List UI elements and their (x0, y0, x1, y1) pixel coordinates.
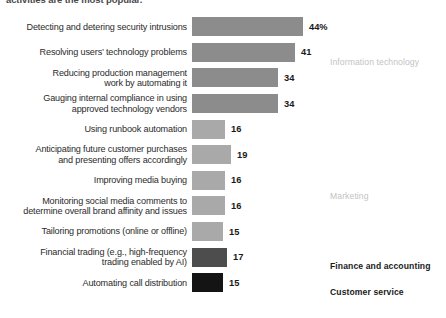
bar-row: Detecting and detering security intrusio… (0, 14, 446, 40)
bar-row-label-line2: approved technology vendors (0, 104, 187, 114)
bar-zone: 34 (192, 91, 446, 117)
bar (192, 94, 278, 113)
bar-row-label-line1: Monitoring social media comments to (42, 196, 187, 206)
bar-row-label: Improving media buying (0, 175, 192, 185)
bar-value-label: 34 (284, 99, 294, 109)
bar-zone: 16 (192, 116, 446, 142)
bar-value-label: 16 (231, 124, 241, 134)
bar-zone: 15 (192, 270, 446, 296)
bar (192, 145, 231, 164)
bar-row: Anticipating future customer purchasesan… (0, 142, 446, 168)
bar-row: Using runbook automation16 (0, 116, 446, 142)
bar-row-label: Monitoring social media comments todeter… (0, 196, 192, 217)
bar-row-label: Using runbook automation (0, 124, 192, 134)
bar-row-label-line2: determine overall brand affinity and iss… (0, 206, 187, 216)
bar-row-label: Automating call distribution (0, 278, 192, 288)
bar-row-label-line2: work by automating it (0, 78, 187, 88)
bar-value-label: 44% (309, 22, 328, 32)
bar-value-label: 16 (231, 201, 241, 211)
bar-row-label-line1: Reducing production management (52, 68, 187, 78)
bar-row-label-line1: Using runbook automation (84, 124, 187, 134)
bar-row-label-line1: Anticipating future customer purchases (35, 144, 187, 154)
bar-chart: activities are the most popular. Detecti… (0, 0, 446, 318)
bar-row-label: Financial trading (e.g., high-frequencyt… (0, 247, 192, 268)
bar-row-label-line1: Automating call distribution (83, 278, 187, 288)
group-label-marketing: Marketing (330, 191, 369, 201)
bar-value-label: 16 (231, 175, 241, 185)
bar-value-label: 15 (229, 227, 239, 237)
bar-row: Reducing production managementwork by au… (0, 65, 446, 91)
bar-value-label: 34 (284, 73, 294, 83)
group-label-customer-service: Customer service (330, 287, 404, 297)
bar-row-label-line1: Tailoring promotions (online or offline) (42, 226, 187, 236)
bar-zone: 16 (192, 193, 446, 219)
bar-row-label-line1: Gauging internal compliance in using (43, 93, 187, 103)
chart-title: activities are the most popular. (6, 0, 306, 6)
bar-row: Gauging internal compliance in usingappr… (0, 91, 446, 117)
bar-row-label-line1: Resolving users’ technology problems (40, 47, 187, 57)
bar-row-label-line2: and presenting offers accordingly (0, 155, 187, 165)
bar (192, 120, 225, 139)
bar-value-label: 15 (229, 278, 239, 288)
bar-row-label: Gauging internal compliance in usingappr… (0, 93, 192, 114)
bar-zone: 44% (192, 14, 446, 40)
bar-zone: 19 (192, 142, 446, 168)
bar (192, 68, 278, 87)
bar-row: Tailoring promotions (online or offline)… (0, 219, 446, 245)
bar-row-label: Tailoring promotions (online or offline) (0, 226, 192, 236)
bar (192, 222, 223, 241)
bar (192, 43, 295, 62)
bar-row-label-line1: Financial trading (e.g., high-frequency (40, 247, 187, 257)
bar (192, 17, 303, 36)
bar-row-label: Resolving users’ technology problems (0, 47, 192, 57)
bar-row: Monitoring social media comments todeter… (0, 193, 446, 219)
bar (192, 273, 223, 292)
bar-row-label-line1: Improving media buying (94, 175, 187, 185)
bar-row-label: Detecting and detering security intrusio… (0, 22, 192, 32)
bar-row-label: Anticipating future customer purchasesan… (0, 144, 192, 165)
bar-value-label: 19 (237, 150, 247, 160)
bar-value-label: 17 (233, 252, 243, 262)
group-label-finance-and-accounting: Finance and accounting (330, 261, 431, 271)
bar-zone: 34 (192, 65, 446, 91)
bar (192, 248, 227, 267)
bar-row-label: Reducing production managementwork by au… (0, 68, 192, 89)
bar (192, 196, 225, 215)
group-label-information-technology: Information technology (330, 57, 419, 67)
bar-row: Improving media buying16 (0, 168, 446, 194)
bar-value-label: 41 (301, 47, 311, 57)
bar-zone: 15 (192, 219, 446, 245)
bar-row-label-line1: Detecting and detering security intrusio… (26, 22, 187, 32)
bar-row-label-line2: trading enabled by AI) (0, 257, 187, 267)
bar (192, 171, 225, 190)
bar-zone: 16 (192, 168, 446, 194)
